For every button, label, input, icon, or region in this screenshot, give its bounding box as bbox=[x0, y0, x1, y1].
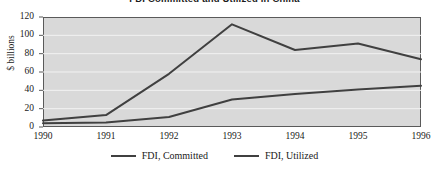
legend-label: FDI, Committed bbox=[142, 150, 208, 161]
x-tick-label: 1995 bbox=[338, 131, 378, 142]
legend-item[interactable]: FDI, Committed bbox=[111, 150, 208, 161]
legend-label: FDI, Utilized bbox=[265, 150, 318, 161]
legend-line-swatch bbox=[234, 155, 259, 157]
chart-legend: FDI, CommittedFDI, Utilized bbox=[0, 150, 429, 161]
x-tick-label: 1992 bbox=[149, 131, 189, 142]
x-tick-label: 1991 bbox=[86, 131, 126, 142]
x-tick-label: 1994 bbox=[275, 131, 315, 142]
legend-line-swatch bbox=[111, 155, 136, 157]
x-tick-label: 1993 bbox=[212, 131, 252, 142]
legend-item[interactable]: FDI, Utilized bbox=[234, 150, 318, 161]
x-tick-label: 1996 bbox=[401, 131, 435, 142]
x-tick-label: 1990 bbox=[23, 131, 63, 142]
